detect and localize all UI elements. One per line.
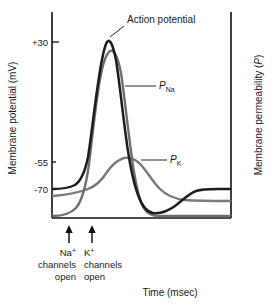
p-na-label-subscript: Na [166, 86, 175, 93]
curve-action-potential [53, 41, 230, 213]
right-axis-title-prefix: Membrane permeability ( [253, 64, 264, 175]
na-channels-annotation: Na+ channels open [38, 247, 76, 282]
k-channels-charge: + [90, 247, 94, 254]
right-axis-title: Membrane permeability (P) [253, 55, 264, 176]
tick-label-minus70: -70 [34, 184, 48, 195]
k-channels-line3: open [84, 271, 105, 282]
na-channels-line2: channels [38, 259, 76, 270]
na-channels-arrow [65, 225, 72, 243]
action-potential-figure: +30 -55 -70 Membrane potential (mV) Memb… [0, 0, 276, 305]
action-potential-leader-line [110, 26, 124, 37]
k-channels-arrow [88, 225, 95, 243]
figure-canvas: +30 -55 -70 Membrane potential (mV) Memb… [0, 0, 276, 305]
na-channels-line1: Na+ [60, 247, 76, 258]
p-k-label-subscript: K [177, 160, 182, 167]
k-channels-annotation: K+ channels open [84, 247, 122, 282]
k-arrow-head [88, 225, 95, 233]
k-channels-line2: channels [84, 259, 122, 270]
tick-label-plus30: +30 [32, 37, 48, 48]
na-arrow-head [65, 225, 72, 233]
na-channels-charge: + [72, 247, 76, 254]
na-channels-line3: open [55, 271, 76, 282]
na-channels-ion: Na [60, 247, 73, 258]
right-axis-title-suffix: ) [253, 55, 264, 58]
p-k-label: PK [170, 154, 182, 167]
left-axis-title: Membrane potential (mV) [7, 62, 18, 175]
k-channels-line1: K+ [84, 247, 94, 258]
tick-label-minus55: -55 [34, 157, 48, 168]
bottom-axis-title: Time (msec) [142, 287, 197, 298]
p-na-label: PNa [159, 80, 175, 93]
action-potential-label: Action potential [127, 14, 195, 25]
